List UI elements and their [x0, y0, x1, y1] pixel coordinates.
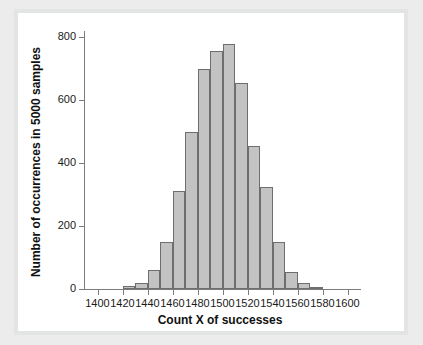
x-axis-title: Count X of successes: [60, 313, 380, 327]
x-tick-mark: [273, 290, 274, 295]
histogram-bar: [135, 283, 148, 289]
histogram-bar: [260, 187, 273, 289]
x-tick-mark: [223, 290, 224, 295]
histogram-bar: [235, 83, 248, 289]
histogram-bar: [273, 242, 286, 289]
y-axis-line: [84, 31, 85, 290]
x-tick-mark: [248, 290, 249, 295]
x-tick-mark: [323, 290, 324, 295]
x-tick-mark: [123, 290, 124, 295]
x-tick-mark: [348, 290, 349, 295]
histogram-figure: 0200400600800 14001420144014601480150015…: [0, 0, 423, 345]
histogram-bar: [310, 287, 323, 289]
histogram-bar: [160, 242, 173, 289]
histogram-bar: [285, 272, 298, 289]
x-tick-label: 1600: [325, 297, 371, 311]
histogram-bar: [210, 51, 223, 289]
y-tick-mark: [79, 226, 84, 227]
y-tick-label-text: 800: [36, 31, 76, 42]
y-axis-title: Number of occurrences in 5000 samples: [29, 42, 43, 282]
histogram-bar: [185, 132, 198, 289]
y-tick-label-text: 0: [36, 283, 76, 294]
histogram-bar: [148, 270, 161, 289]
histogram-bar: [198, 69, 211, 289]
y-tick-mark: [79, 163, 84, 164]
y-tick-mark: [79, 289, 84, 290]
y-tick-mark: [79, 37, 84, 38]
x-tick-mark: [298, 290, 299, 295]
histogram-bar: [173, 191, 186, 289]
x-tick-mark: [173, 290, 174, 295]
histogram-bar: [298, 283, 311, 289]
histogram-bar: [123, 286, 136, 289]
x-tick-mark: [198, 290, 199, 295]
y-tick-mark: [79, 100, 84, 101]
x-tick-label-text: 1600: [325, 297, 371, 309]
x-tick-mark: [148, 290, 149, 295]
y-tick-label: 0: [32, 283, 76, 295]
x-tick-mark: [98, 290, 99, 295]
histogram-bar: [223, 44, 236, 289]
histogram-bar: [248, 146, 261, 289]
